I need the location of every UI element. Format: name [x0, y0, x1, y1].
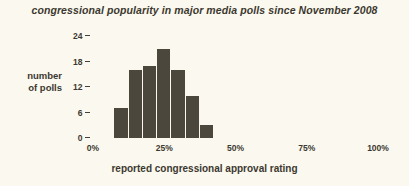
y-axis-tick: 12 — [50, 82, 90, 92]
y-axis-tick-label: 6 — [78, 108, 83, 118]
plot-area — [93, 36, 378, 138]
x-axis-tick-label: 0% — [87, 143, 99, 153]
x-axis-tick-group: 0%25%50%75%100% — [93, 143, 378, 157]
y-axis-tick-label: 0 — [78, 133, 83, 143]
y-axis-tick-label: 24 — [73, 31, 82, 41]
histogram-bar — [200, 125, 214, 138]
histogram-bar — [171, 70, 185, 138]
x-axis-tick-label: 100% — [367, 143, 389, 153]
y-axis-tick-mark — [85, 137, 90, 138]
y-axis-tick: 24 — [50, 31, 90, 41]
y-axis-tick-label: 18 — [73, 57, 82, 67]
y-axis-tick-label: 12 — [73, 82, 82, 92]
histogram-bar — [129, 70, 143, 138]
x-axis-label: reported congressional approval rating — [0, 163, 409, 174]
x-axis-tick-label: 75% — [298, 143, 315, 153]
x-axis-tick-label: 50% — [227, 143, 244, 153]
y-axis-tick: 0 — [50, 133, 90, 143]
histogram-bar — [186, 96, 200, 139]
histogram-bar — [143, 66, 157, 138]
y-axis-tick-mark — [85, 86, 90, 87]
chart-title: congressional popularity in major media … — [0, 4, 409, 16]
histogram-bar — [114, 108, 128, 138]
y-axis-tick-mark — [85, 112, 90, 113]
x-axis-tick-label: 25% — [156, 143, 173, 153]
y-axis-tick-group: 06121824 — [50, 30, 90, 145]
y-axis-tick-mark — [85, 61, 90, 62]
histogram-bar — [157, 49, 171, 138]
y-axis-tick: 6 — [50, 108, 90, 118]
histogram-chart: congressional popularity in major media … — [0, 0, 409, 186]
y-axis-tick-mark — [85, 35, 90, 36]
y-axis-tick: 18 — [50, 57, 90, 67]
